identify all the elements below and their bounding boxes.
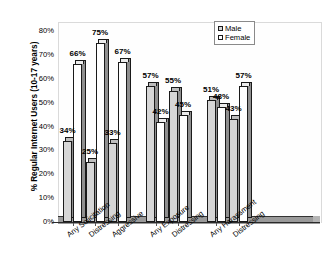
legend-item-female: Female xyxy=(218,33,250,42)
legend-item-label: Male xyxy=(225,24,241,33)
bar-chart: % Regular Internet Users (10-17 years) 0… xyxy=(0,0,326,275)
legend-swatch-icon xyxy=(218,35,223,40)
x-axis-labels: Any SolicitationDistressingAggressiveAny… xyxy=(0,0,326,275)
legend-item-male: Male xyxy=(218,24,250,33)
legend-item-label: Female xyxy=(225,33,250,42)
legend-swatch-icon xyxy=(218,26,223,31)
legend: MaleFemale xyxy=(214,21,255,45)
